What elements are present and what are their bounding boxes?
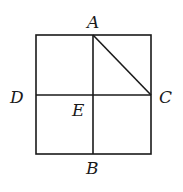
point-label-d: D (9, 87, 24, 107)
point-label-b: B (85, 158, 99, 178)
point-label-c: C (159, 87, 172, 107)
segment-ac (93, 35, 151, 95)
point-label-e: E (71, 100, 85, 120)
point-label-a: A (85, 12, 99, 32)
geometry-diagram: A B C D E (0, 0, 183, 192)
